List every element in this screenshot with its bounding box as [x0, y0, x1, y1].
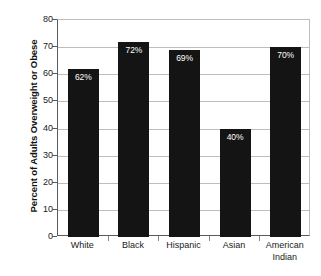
x-axis-category-line: American — [259, 240, 310, 252]
x-axis-category-label: Black — [108, 240, 159, 252]
x-axis-category-line: Hispanic — [158, 240, 209, 252]
y-axis-tick-label: 40 — [31, 123, 53, 133]
x-axis-category-label: AmericanIndian — [259, 240, 310, 263]
y-axis-tick-label: 10 — [31, 204, 53, 214]
bar: 70% — [270, 47, 301, 237]
x-axis-category-label: White — [57, 240, 108, 252]
y-axis-tick-mark — [52, 182, 57, 183]
x-axis-separator-tick — [158, 236, 159, 241]
y-axis-tick-label: 20 — [31, 177, 53, 187]
x-axis-separator-tick — [259, 236, 260, 241]
y-axis-tick-label: 60 — [31, 68, 53, 78]
y-axis-tick-label: 80 — [31, 14, 53, 24]
y-axis-tick-mark — [52, 46, 57, 47]
bar-value-label: 40% — [220, 132, 251, 142]
bar: 62% — [68, 69, 99, 237]
bar-value-label: 62% — [68, 72, 99, 82]
bar-value-label: 72% — [118, 45, 149, 55]
y-axis-tick-mark — [52, 209, 57, 210]
x-axis-category-line: Asian — [209, 240, 260, 252]
x-axis-separator-tick — [209, 236, 210, 241]
y-axis-tick-label: 50 — [31, 95, 53, 105]
plot-area: 62%72%69%40%70% — [57, 19, 310, 236]
x-axis-category-label: Hispanic — [158, 240, 209, 252]
x-axis-category-line: Black — [108, 240, 159, 252]
chart-figure: Percent of Adults Overweight or Obese 01… — [0, 0, 321, 276]
y-axis-tick-label: 30 — [31, 150, 53, 160]
y-axis-tick-label: 70 — [31, 41, 53, 51]
y-axis-tick-labels: 01020304050607080 — [29, 19, 53, 236]
y-axis-tick-mark — [52, 128, 57, 129]
y-axis-tick-mark — [52, 155, 57, 156]
bar-value-label: 69% — [169, 53, 200, 63]
x-axis-category-label: Asian — [209, 240, 260, 252]
x-axis-category-line: White — [57, 240, 108, 252]
bar: 69% — [169, 50, 200, 237]
x-axis-separator-tick — [108, 236, 109, 241]
bar-value-label: 70% — [270, 50, 301, 60]
y-axis-tick-mark — [52, 100, 57, 101]
bar: 72% — [118, 42, 149, 237]
y-axis-tick-mark — [52, 19, 57, 20]
x-axis-category-line: Indian — [259, 252, 310, 264]
y-axis-tick-mark — [52, 236, 57, 237]
bar: 40% — [220, 129, 251, 238]
y-axis-tick-label: 0 — [31, 231, 53, 241]
y-axis-tick-mark — [52, 73, 57, 74]
